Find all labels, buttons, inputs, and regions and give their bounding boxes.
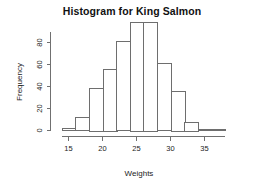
histogram-bar	[185, 123, 199, 132]
histogram-bar	[131, 23, 145, 132]
histogram-figure: Histogram for King Salmon Frequency 0 20…	[0, 0, 264, 192]
histogram-bar	[158, 64, 172, 131]
y-tick-label-80: 80	[35, 38, 44, 46]
x-tick-label-20: 20	[98, 144, 106, 153]
x-axis-title: Weights	[125, 169, 154, 178]
histogram-bar	[76, 118, 90, 131]
y-tick-label-60: 60	[35, 60, 44, 68]
histogram-plot: Frequency 0 20 40 60 80 15 20 25 30 35 W…	[0, 0, 264, 192]
histogram-bar	[63, 129, 77, 131]
y-tick-label-20: 20	[35, 104, 44, 112]
x-tick-label-15: 15	[64, 144, 72, 153]
histogram-bar	[172, 92, 186, 132]
x-tick-label-35: 35	[200, 144, 208, 153]
y-tick-label-0: 0	[35, 128, 44, 132]
histogram-bar	[199, 130, 213, 131]
y-axis-title: Frequency	[15, 63, 24, 101]
histogram-bar	[144, 23, 158, 132]
y-tick-label-40: 40	[35, 82, 44, 90]
x-tick-label-30: 30	[166, 144, 174, 153]
histogram-bar	[212, 130, 226, 131]
histogram-bars	[63, 23, 226, 132]
x-tick-label-25: 25	[132, 144, 140, 153]
histogram-bar	[104, 70, 118, 132]
histogram-bar	[117, 42, 131, 131]
histogram-bar	[90, 89, 104, 132]
